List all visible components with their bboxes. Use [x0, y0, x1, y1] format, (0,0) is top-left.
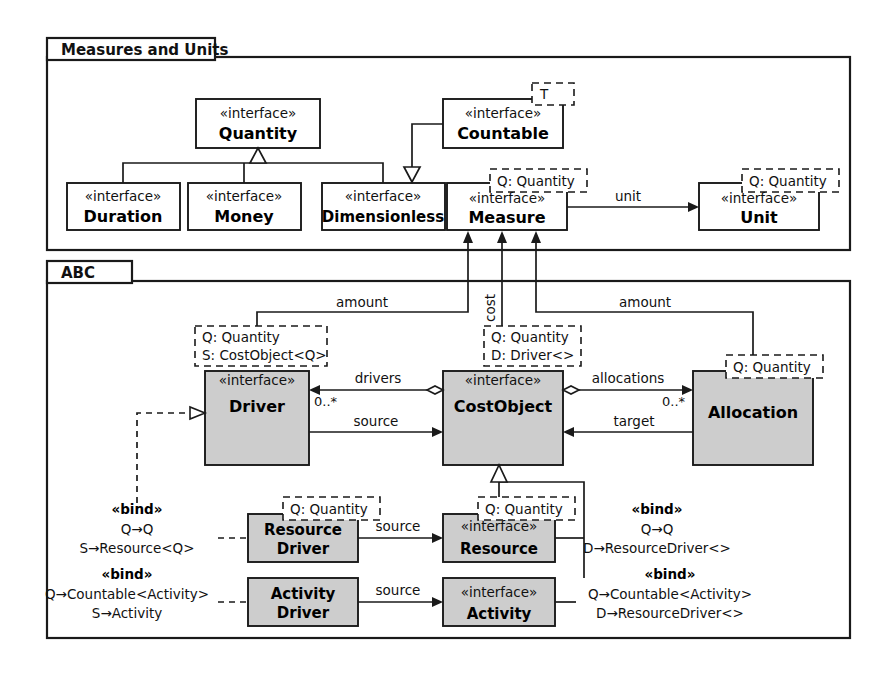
- class-resource-template-param: Q: Quantity: [485, 501, 563, 517]
- class-activitydriver-name-line2: Driver: [277, 604, 330, 622]
- multiplicity-drivers: 0..*: [314, 394, 338, 409]
- generalization-triangle-costobject: [491, 465, 507, 482]
- bind-annotation-resource: «bind» Q→Q D→ResourceDriver<>: [583, 501, 731, 556]
- class-countable-name: Countable: [457, 124, 549, 143]
- class-unit-template-param: Q: Quantity: [749, 173, 827, 189]
- association-allocations: allocations 0..*: [563, 370, 693, 409]
- bind-annotation-activity: «bind» Q→Countable<Activity> D→ResourceD…: [588, 566, 752, 621]
- realization-to-driver: [137, 407, 205, 503]
- class-resourcedriver-name-line1: Resource: [264, 521, 342, 539]
- class-resource[interactable]: Q: Quantity «interface» Resource: [443, 497, 575, 562]
- class-unit-name: Unit: [740, 208, 778, 227]
- class-driver-template-param-1: S: CostObject<Q>: [202, 347, 327, 363]
- bind-activitydriver-title: «bind»: [101, 566, 152, 582]
- class-resourcedriver-template-param: Q: Quantity: [290, 501, 368, 517]
- class-allocation[interactable]: Q: Quantity Allocation: [693, 355, 823, 465]
- edge-label-source-resource: source: [376, 518, 421, 534]
- bind-activity-line-0: Q→Countable<Activity>: [588, 586, 752, 602]
- class-resourcedriver-name-line2: Driver: [277, 540, 330, 558]
- bind-resourcedriver-line-1: S→Resource<Q>: [79, 540, 194, 556]
- class-costobject[interactable]: Q: Quantity D: Driver<> «interface» Cost…: [443, 326, 581, 465]
- bind-resourcedriver-line-0: Q→Q: [121, 521, 154, 537]
- edge-label-amount-allocation: amount: [619, 294, 671, 310]
- class-quantity[interactable]: «interface» Quantity: [196, 99, 320, 148]
- edge-label-cost: cost: [482, 294, 498, 322]
- class-costobject-name: CostObject: [454, 397, 553, 416]
- class-money-stereotype: «interface»: [206, 188, 283, 204]
- class-quantity-stereotype: «interface»: [220, 105, 297, 121]
- class-activitydriver-name-line1: Activity: [271, 585, 336, 603]
- bind-resource-title: «bind»: [631, 501, 682, 517]
- class-money-name: Money: [214, 207, 274, 226]
- class-costobject-template-param-1: D: Driver<>: [491, 347, 574, 363]
- generalization-countable-dimensionless: [404, 124, 443, 182]
- class-countable[interactable]: T «interface» Countable: [443, 83, 574, 148]
- class-quantity-name: Quantity: [219, 124, 298, 143]
- bind-activitydriver-line-1: S→Activity: [92, 605, 162, 621]
- association-source-resource: source: [358, 518, 443, 543]
- package-measures-label: Measures and Units: [61, 41, 228, 59]
- class-resource-stereotype: «interface»: [461, 518, 538, 534]
- edge-label-source-driver: source: [354, 413, 399, 429]
- association-driver-amount: amount: [257, 231, 473, 326]
- arrowhead-amount-allocation: [531, 231, 541, 243]
- class-activity-stereotype: «interface»: [461, 584, 538, 600]
- bind-resourcedriver-title: «bind»: [111, 501, 162, 517]
- association-source-activity: source: [358, 582, 443, 607]
- class-dimensionless-stereotype: «interface»: [345, 188, 422, 204]
- bind-activity-line-1: D→ResourceDriver<>: [596, 605, 744, 621]
- class-countable-template-param: T: [539, 86, 549, 102]
- class-unit[interactable]: Q: Quantity «interface» Unit: [699, 169, 839, 230]
- class-countable-stereotype: «interface»: [465, 105, 542, 121]
- bind-activity-title: «bind»: [644, 566, 695, 582]
- arrowhead-target: [563, 427, 574, 437]
- association-costobject-cost: cost: [482, 231, 507, 326]
- arrowhead-source-activity: [432, 597, 443, 607]
- aggregation-diamond-drivers: [427, 386, 443, 394]
- edge-label-unit: unit: [615, 188, 641, 204]
- class-resource-name: Resource: [460, 540, 538, 558]
- generalization-triangle-dimensionless: [404, 167, 420, 182]
- bind-annotation-activitydriver: «bind» Q→Countable<Activity> S→Activity: [45, 566, 209, 621]
- arrowhead-cost: [497, 231, 507, 243]
- class-duration-stereotype: «interface»: [85, 188, 162, 204]
- class-activity-name: Activity: [467, 605, 532, 623]
- class-allocation-name: Allocation: [708, 403, 798, 422]
- class-driver[interactable]: Q: Quantity S: CostObject<Q> «interface»…: [195, 326, 327, 465]
- class-measure-name: Measure: [468, 208, 545, 227]
- association-drivers: drivers 0..*: [309, 370, 443, 409]
- generalization-to-quantity: [123, 148, 383, 183]
- package-abc-label: ABC: [61, 264, 95, 282]
- class-driver-stereotype: «interface»: [219, 372, 296, 388]
- aggregation-diamond-allocations: [563, 386, 579, 394]
- generalization-triangle-quantity: [250, 148, 266, 163]
- class-money[interactable]: «interface» Money: [188, 183, 301, 230]
- multiplicity-allocations: 0..*: [662, 394, 686, 409]
- edge-label-allocations: allocations: [592, 370, 665, 386]
- class-costobject-stereotype: «interface»: [465, 372, 542, 388]
- class-measure[interactable]: Q: Quantity «interface» Measure: [447, 169, 587, 230]
- class-driver-template-param-0: Q: Quantity: [202, 329, 280, 345]
- class-activity[interactable]: «interface» Activity: [443, 578, 555, 626]
- class-dimensionless[interactable]: «interface» Dimensionless: [322, 183, 445, 230]
- class-countable-template-box: [532, 83, 574, 105]
- class-duration[interactable]: «interface» Duration: [67, 183, 180, 230]
- bind-resource-line-1: D→ResourceDriver<>: [583, 540, 731, 556]
- edge-label-source-activity: source: [376, 582, 421, 598]
- edge-label-target: target: [613, 413, 654, 429]
- class-measure-template-param: Q: Quantity: [497, 173, 575, 189]
- realization-triangle-driver: [190, 407, 205, 419]
- class-unit-stereotype: «interface»: [721, 190, 798, 206]
- edge-label-amount-driver: amount: [336, 294, 388, 310]
- class-measure-stereotype: «interface»: [469, 190, 546, 206]
- uml-diagram-canvas: Measures and Units «interface» Quantity …: [0, 0, 888, 687]
- arrowhead-amount-driver: [463, 231, 473, 243]
- bind-resource-line-0: Q→Q: [641, 521, 674, 537]
- class-costobject-template-param-0: Q: Quantity: [491, 329, 569, 345]
- class-resourcedriver[interactable]: Q: Quantity Resource Driver: [248, 497, 380, 562]
- class-allocation-template-param: Q: Quantity: [733, 359, 811, 375]
- bind-activitydriver-line-0: Q→Countable<Activity>: [45, 586, 209, 602]
- arrowhead-source-resource: [432, 533, 443, 543]
- class-activitydriver[interactable]: Activity Driver: [248, 578, 358, 626]
- association-source-driver: source: [309, 413, 443, 437]
